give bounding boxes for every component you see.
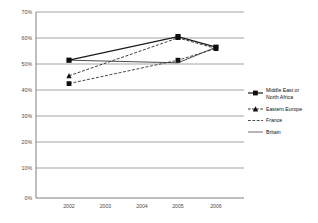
legend-labels: Middle East or North Africa Eastern Euro…	[266, 87, 302, 134]
legend-keys	[248, 91, 263, 132]
data-point-france-2002	[67, 81, 72, 86]
y-tick-label: 20%	[22, 139, 33, 145]
series-line-france	[69, 49, 216, 84]
data-point-mena-2006	[213, 45, 218, 50]
line-chart: 70% 60% 50% 40% 30% 20% 10% 0%	[0, 0, 318, 223]
data-point-mena-2002	[66, 58, 71, 63]
data-point-france-2005	[176, 58, 181, 63]
chart-plot-area: 70% 60% 50% 40% 30% 20% 10% 0%	[0, 0, 318, 223]
x-axis-tick-labels: 2002 2003 2004 2005 2006	[63, 203, 222, 209]
x-tick-label: 2003	[100, 203, 112, 209]
y-axis-tick-labels: 70% 60% 50% 40% 30% 20% 10% 0%	[22, 9, 33, 201]
legend-label-france: France	[266, 117, 282, 123]
x-tick-label: 2002	[63, 203, 75, 209]
gridlines	[36, 12, 244, 168]
y-tick-label: 40%	[22, 87, 33, 93]
y-tick-label: 60%	[22, 35, 33, 41]
x-tick-label: 2005	[172, 203, 184, 209]
y-tick-label: 0%	[25, 195, 33, 201]
x-tick-label: 2004	[136, 203, 148, 209]
y-tick-label: 10%	[22, 165, 33, 171]
legend-label-mena-line1: Middle East or	[266, 87, 299, 93]
legend-label-eastern-europe: Eastern Europe	[266, 106, 302, 112]
x-tick-label: 2006	[210, 203, 222, 209]
y-tick-label: 50%	[22, 61, 33, 67]
legend-label-mena-line2: North Africa	[266, 94, 293, 100]
legend-key-marker-mena	[253, 91, 258, 96]
legend-label-britain: Britain	[266, 129, 281, 135]
series-line-eastern-europe	[69, 38, 216, 76]
data-point-mena-2005	[175, 34, 180, 39]
y-tick-label: 70%	[22, 9, 33, 15]
y-tick-label: 30%	[22, 113, 33, 119]
